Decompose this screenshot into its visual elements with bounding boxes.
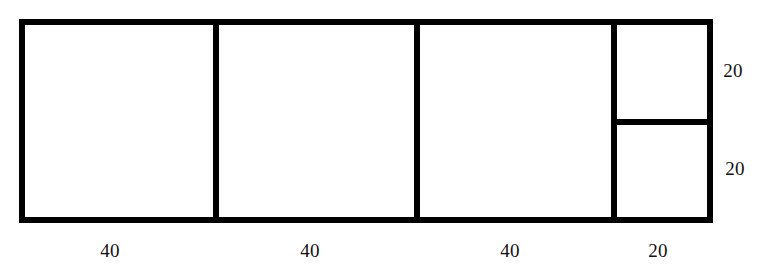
bottom-dimension-label-2: 40 <box>300 241 319 260</box>
cell-4-bottom <box>617 125 710 220</box>
cell-1 <box>22 22 213 220</box>
diagram-canvas: 40 40 40 20 20 20 <box>0 0 768 267</box>
cell-2 <box>219 22 414 220</box>
bottom-dimension-label-3: 40 <box>500 241 519 260</box>
right-dimension-label-2: 20 <box>725 159 744 178</box>
right-dimension-label-1: 20 <box>723 61 742 80</box>
cell-4-top <box>617 22 710 119</box>
bottom-dimension-label-1: 40 <box>100 241 119 260</box>
bottom-dimension-label-4: 20 <box>648 241 667 260</box>
cell-3 <box>420 22 611 220</box>
